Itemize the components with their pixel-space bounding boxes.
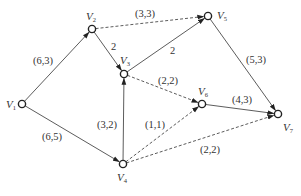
edge-label-v4-v3: (3,2) xyxy=(97,119,118,131)
edge-v3-v5 xyxy=(127,18,205,72)
node-v4 xyxy=(119,160,126,167)
edge-label-v5-v7: (5,3) xyxy=(246,54,267,66)
node-label-v1: V1 xyxy=(6,98,16,111)
node-v3 xyxy=(120,70,127,77)
node-v1 xyxy=(18,100,25,107)
edge-label-v3-v6: (2,2) xyxy=(158,75,179,87)
edge-label-v2-v3: 2 xyxy=(111,41,116,52)
edge-label-v6-v7: (4,3) xyxy=(232,94,253,106)
edge-v4-v6 xyxy=(126,107,199,162)
edge-label-v4-v7: (2,2) xyxy=(200,144,221,156)
node-label-v5: V5 xyxy=(217,9,227,22)
node-label-v4: V4 xyxy=(117,171,128,184)
nodes-layer xyxy=(18,12,281,167)
edge-label-v1-v4: (6,5) xyxy=(42,131,63,143)
node-v7 xyxy=(274,110,281,117)
node-v6 xyxy=(198,100,205,107)
node-label-v7: V7 xyxy=(283,121,294,134)
edge-v4-v3 xyxy=(123,78,124,160)
node-label-v3: V3 xyxy=(120,54,130,67)
flow-network-diagram: (6,3)(6,5)2(3,3)2(2,2)(3,2)(1,1)(2,2)(5,… xyxy=(0,0,301,196)
edge-v1-v4 xyxy=(25,106,119,162)
node-v5 xyxy=(204,12,211,19)
edge-label-v3-v5: 2 xyxy=(170,45,175,56)
edge-v1-v2 xyxy=(24,32,89,101)
node-label-v6: V6 xyxy=(198,85,209,98)
node-v2 xyxy=(88,25,95,32)
edge-label-v1-v2: (6,3) xyxy=(33,55,54,67)
edge-label-v4-v6: (1,1) xyxy=(145,119,166,131)
edge-label-v2-v5: (3,3) xyxy=(135,8,156,20)
edge-v6-v7 xyxy=(206,104,274,113)
edge-labels-layer: (6,3)(6,5)2(3,3)2(2,2)(3,2)(1,1)(2,2)(5,… xyxy=(33,8,267,156)
edge-v2-v3 xyxy=(94,32,121,71)
node-label-v2: V2 xyxy=(86,10,96,23)
